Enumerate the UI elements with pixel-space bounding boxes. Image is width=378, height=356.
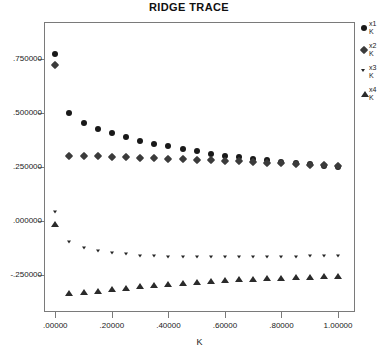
data-point	[308, 255, 312, 258]
legend-item-x2[interactable]: x2K	[358, 42, 378, 64]
data-point	[136, 283, 144, 289]
data-point	[194, 148, 200, 154]
y-tick-label: .250000	[0, 163, 42, 171]
data-point	[164, 154, 172, 162]
y-tick-label: -.250000	[0, 271, 42, 279]
data-point	[193, 279, 201, 285]
x-tick-label: .00000	[25, 321, 85, 330]
data-point	[221, 277, 229, 283]
data-point	[110, 251, 114, 254]
legend-label: x4K	[369, 86, 376, 101]
legend-label-variable: x2	[369, 42, 376, 50]
legend-label: x1K	[369, 20, 376, 35]
data-point	[181, 256, 185, 259]
x-tick-mark	[168, 312, 169, 318]
data-point	[96, 249, 100, 252]
data-point	[138, 254, 142, 257]
data-point	[322, 255, 326, 258]
data-point	[263, 275, 271, 281]
data-point	[108, 286, 116, 292]
data-point	[165, 143, 171, 149]
data-point	[209, 256, 213, 259]
triangle-down-marker-icon	[361, 69, 365, 72]
data-point	[336, 254, 340, 257]
data-point	[334, 273, 342, 279]
data-point	[124, 253, 128, 256]
data-point	[94, 288, 102, 294]
ridge-trace-chart: RIDGE TRACE .750000.500000.250000.000000…	[0, 0, 378, 356]
data-point	[277, 275, 285, 281]
legend-label: x2K	[369, 42, 376, 57]
data-point	[53, 211, 57, 214]
chart-title: RIDGE TRACE	[0, 1, 378, 13]
circle-marker-icon	[361, 25, 367, 31]
data-point	[81, 120, 87, 126]
legend-label-param: K	[369, 28, 376, 36]
data-point	[95, 126, 101, 132]
x-tick-label: 1.00000	[308, 321, 368, 330]
data-point	[166, 255, 170, 258]
legend-item-x4[interactable]: x4K	[358, 86, 378, 108]
legend-label-variable: x1	[369, 20, 376, 28]
data-point	[93, 152, 101, 160]
data-point	[123, 134, 129, 140]
data-point	[137, 138, 143, 144]
data-point	[51, 61, 59, 69]
data-point	[65, 290, 73, 296]
legend-label: x3K	[369, 64, 376, 79]
plot-area	[44, 22, 355, 312]
data-point	[151, 141, 157, 147]
x-tick-label: .20000	[82, 321, 142, 330]
chart-legend: x1Kx2Kx3Kx4K	[358, 20, 378, 108]
data-point	[136, 153, 144, 161]
data-point	[51, 221, 59, 227]
data-point	[179, 280, 187, 286]
data-point	[235, 276, 243, 282]
x-tick-mark	[338, 312, 339, 318]
data-point	[237, 256, 241, 259]
legend-label-variable: x4	[369, 86, 376, 94]
legend-item-x3[interactable]: x3K	[358, 64, 378, 86]
y-tick-label: .000000	[0, 217, 42, 225]
legend-label-param: K	[369, 94, 376, 102]
data-point	[292, 274, 300, 280]
data-point	[306, 274, 314, 280]
data-point	[294, 255, 298, 258]
data-point	[180, 146, 186, 152]
data-point	[150, 154, 158, 162]
x-tick-mark	[55, 312, 56, 318]
data-point	[178, 155, 186, 163]
data-point	[66, 110, 72, 116]
y-tick-label: .750000	[0, 55, 42, 63]
data-point	[67, 241, 71, 244]
data-point	[249, 276, 257, 282]
x-tick-label: .40000	[138, 321, 198, 330]
x-tick-mark	[225, 312, 226, 318]
x-tick-mark	[281, 312, 282, 318]
x-tick-mark	[112, 312, 113, 318]
data-point	[235, 157, 243, 165]
data-point	[320, 273, 328, 279]
data-point	[164, 281, 172, 287]
y-tick-label: .500000	[0, 109, 42, 117]
data-point	[152, 255, 156, 258]
data-point	[79, 152, 87, 160]
legend-label-variable: x3	[369, 64, 376, 72]
data-point	[207, 156, 215, 164]
data-point	[251, 256, 255, 259]
data-point	[279, 255, 283, 258]
data-point	[122, 285, 130, 291]
data-point	[65, 151, 73, 159]
data-point	[195, 256, 199, 259]
legend-label-param: K	[369, 50, 376, 58]
data-point	[150, 282, 158, 288]
data-point	[52, 51, 58, 57]
data-point	[122, 153, 130, 161]
x-tick-label: .60000	[195, 321, 255, 330]
data-point	[82, 246, 86, 249]
legend-item-x1[interactable]: x1K	[358, 20, 378, 42]
data-point	[207, 278, 215, 284]
x-tick-label: .80000	[251, 321, 311, 330]
legend-label-param: K	[369, 72, 376, 80]
data-point	[277, 159, 285, 167]
